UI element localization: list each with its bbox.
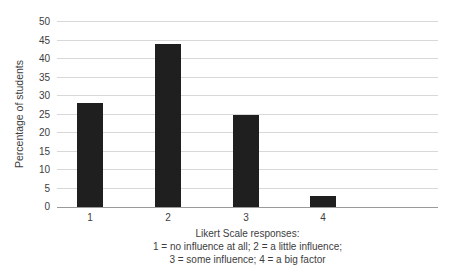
x-category-label-2: 2 [165,212,171,223]
x-category-label-3: 3 [243,212,249,223]
y-tick-label-20: 20 [39,128,50,138]
caption-line-2: 1 = no influence at all; 2 = a little in… [57,240,438,253]
y-tick-label-50: 50 [39,17,50,27]
caption-line-3: 3 = some influence; 4 = a big factor [57,253,438,266]
x-category-label-4: 4 [320,212,326,223]
x-axis-caption: Likert Scale responses: 1 = no influence… [57,227,438,266]
y-tick-label-25: 25 [39,110,50,120]
y-tick-label-10: 10 [39,165,50,175]
gridline-30 [57,95,438,96]
y-tick-label-45: 45 [39,36,50,46]
y-tick-label-5: 5 [44,184,50,194]
y-tick-label-40: 40 [39,54,50,64]
gridline-40 [57,58,438,59]
y-tick-label-35: 35 [39,73,50,83]
plot-area [57,22,438,208]
y-axis-title: Percentage of students [13,60,25,168]
bar-category-3 [233,115,259,208]
y-tick-label-15: 15 [39,147,50,157]
y-tick-label-30: 30 [39,91,50,101]
bar-chart: Percentage of students 05101520253035404… [0,0,461,274]
x-category-label-1: 1 [87,212,93,223]
bar-category-1 [77,103,103,207]
gridline-50 [57,21,438,22]
gridline-35 [57,77,438,78]
y-tick-label-0: 0 [44,202,50,212]
gridline-45 [57,40,438,41]
bar-category-4 [310,196,336,207]
bar-category-2 [155,44,181,207]
caption-line-1: Likert Scale responses: [57,227,438,240]
